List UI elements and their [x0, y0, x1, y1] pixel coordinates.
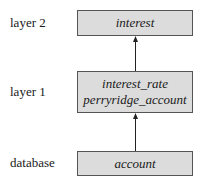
arrows — [0, 0, 204, 190]
arrow-layer1-to-layer2 — [133, 36, 138, 71]
arrow-database-to-layer1 — [133, 113, 138, 151]
